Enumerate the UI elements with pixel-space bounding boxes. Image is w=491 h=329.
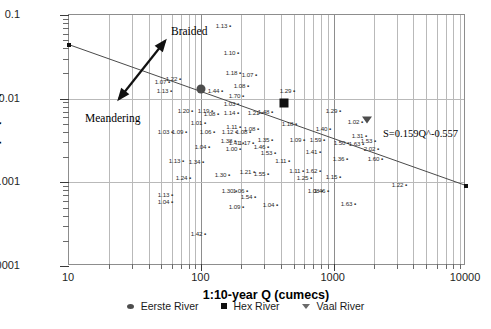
data-point-label: 1.18▪ [282,121,297,127]
legend-item-eerste-river[interactable]: Eerste River [127,300,199,312]
data-point-label: 1.46▪ [314,188,329,194]
data-point-label: 1.70▪ [229,93,244,99]
series-marker-vaal-river[interactable] [362,117,372,124]
data-point-label: 1.12▪ [222,129,237,135]
x-tick-label: 10000 [450,271,481,283]
data-point-label: 1.03▪ [224,101,239,107]
data-point-label: 1.55▪ [254,171,269,177]
data-point-label: 1.08▪ [204,111,219,117]
data-point-label: 2.02▪ [364,146,379,152]
data-point-label: 1.07▪ [242,72,257,78]
square-marker-icon [221,303,227,309]
data-point-label: 1.11▪ [275,158,290,164]
legend-label: Hex River [234,300,280,312]
y-axis-tick [60,266,69,267]
x-tick-label: 1000 [320,271,344,283]
data-point-label: 1.08▪ [234,83,249,89]
y-axis-tick [60,182,69,183]
annotation-meandering: Meandering [85,112,141,124]
data-point-label: 1.00▪ [226,146,241,152]
data-point-label: 1.36▪ [333,156,348,162]
data-point-label: 1.29▪ [280,88,295,94]
legend-label: Eerste River [141,300,199,312]
data-point-label: 1.42▪ [191,231,206,237]
data-point-label: 1.13▪ [157,88,172,94]
series-marker-eerste-river[interactable] [197,84,206,93]
y-tick-label: 0.0001 [0,259,20,271]
data-point-label: 1.25▪ [297,175,312,181]
data-point-label: 1.63▪ [349,141,364,147]
trendline-endpoint-marker [464,184,468,188]
data-point-label: 1.01▪ [191,120,206,126]
y-tick-label: 0.001 [0,175,20,187]
data-point-label: 1.09▪ [172,129,187,135]
data-point-label: 1.54▪ [241,194,256,200]
data-point-label: 1.10▪ [224,50,239,56]
data-point-label: 1.14▪ [224,110,239,116]
x-tick-label: 10 [62,271,74,283]
trendline-endpoint-marker [67,43,71,47]
data-point-label: 1.59▪ [310,137,325,143]
plot-area: 1.13▪1.10▪1.18▪1.07▪1.08▪1.07▪1.22▪1.13▪… [68,14,465,265]
data-point-label: 1.06▪ [200,129,215,135]
data-point-label: 1.04▪ [263,202,278,208]
legend-label: Vaal River [317,300,365,312]
data-point-label: 1.34▪ [189,159,204,165]
data-point-label: 1.63▪ [341,201,356,207]
chart-legend: Eerste River Hex River Vaal River [0,300,491,312]
data-point-label: 1.09▪ [290,137,305,143]
data-point-label: 1.50▪ [334,140,349,146]
data-point-label: 1.21▪ [240,169,255,175]
data-point-label: 1.03▪ [158,129,173,135]
data-point-label: 1.04▪ [195,144,210,150]
data-point-label: 1.22▪ [392,182,407,188]
y-tick-label: 0.01 [0,92,20,104]
data-point-label: 1.53▪ [261,150,276,156]
y-axis-tick [60,15,69,16]
legend-item-hex-river[interactable]: Hex River [221,300,280,312]
data-point-label: 1.08▪ [236,129,251,135]
data-point-label: 1.40▪ [316,126,331,132]
triangle-marker-icon [302,304,310,309]
data-point-label: 1.15▪ [326,174,341,180]
data-point-label: 1.29▪ [326,108,341,114]
y-axis-tick [60,99,69,100]
legend-item-vaal-river[interactable]: Vaal River [302,300,365,312]
data-point-label: 1.13▪ [216,23,231,29]
data-point-label: 1.44▪ [208,88,223,94]
annotation-braided: Braided [171,25,207,37]
circle-marker-icon [127,304,134,309]
data-point-label: 1.18▪ [226,70,241,76]
data-point-label: 1.22▪ [166,76,181,82]
data-point-label: 1.20▪ [178,108,193,114]
trendline-equation: S=0.159Q^-0.557 [383,128,458,139]
data-point-label: 1.41▪ [306,149,321,155]
series-marker-hex-river[interactable] [279,99,288,108]
data-point-label: 1.09▪ [229,204,244,210]
data-point-label: 1.04▪ [158,199,173,205]
data-point-label: 1.13▪ [169,158,184,164]
data-point-label: 1.48▪ [258,109,273,115]
data-point-label: 1.17▪ [239,140,254,146]
data-point-label: 1.60▪ [368,156,383,162]
chart-figure: Slope (m/m) 1:10-year Q (cumecs) 0.10.01… [0,0,491,329]
data-point-label: 1.02▪ [348,119,363,125]
data-point-label: 1.30▪ [215,172,230,178]
y-tick-label: 0.1 [5,8,20,20]
data-point-label: 1.24▪ [176,175,191,181]
x-tick-label: 100 [191,271,209,283]
